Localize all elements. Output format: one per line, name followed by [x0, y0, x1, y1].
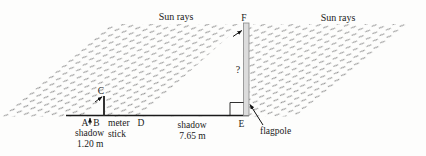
point-c-label: C	[98, 86, 104, 96]
pole-shadow-value: 7.65 m	[179, 131, 206, 141]
meter-stick-label-line1: meter	[108, 118, 130, 128]
point-b-label: B	[93, 118, 99, 128]
stick-shadow-label: shadow	[75, 128, 104, 138]
point-f-label: F	[241, 13, 246, 23]
question-mark-label: ?	[236, 64, 241, 75]
flagpole-label: flagpole	[260, 126, 291, 136]
sun-rays-label-right: Sun rays	[321, 12, 356, 23]
point-e-label: E	[239, 119, 245, 129]
shadow-diagram: Sun rays Sun rays F ? E flagpole C A B D…	[0, 0, 426, 156]
meter-stick-label-line2: stick	[108, 129, 126, 139]
pole-shadow-label: shadow	[177, 120, 206, 130]
flagpole-rect	[244, 23, 250, 116]
point-a-label: A	[82, 118, 89, 128]
point-d-label: D	[138, 118, 145, 128]
sun-rays-label-left: Sun rays	[159, 11, 194, 22]
stick-shadow-value: 1.20 m	[77, 139, 104, 149]
diagram-canvas: Sun rays Sun rays F ? E flagpole C A B D…	[0, 0, 426, 156]
